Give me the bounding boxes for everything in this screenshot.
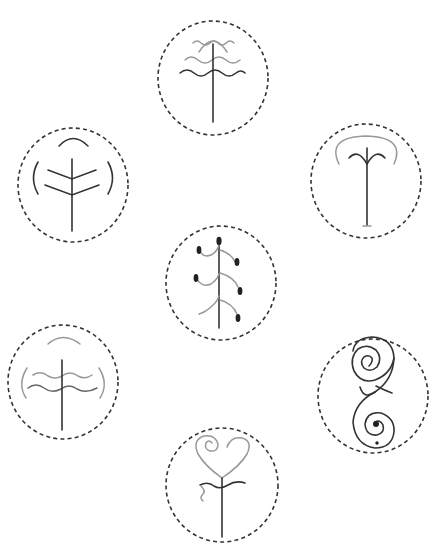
symbol-lower-right <box>318 337 428 453</box>
symbol-diagram <box>0 0 440 557</box>
chevron-branch-tree-icon <box>34 139 113 232</box>
seed-pod-stalk-icon <box>194 237 243 328</box>
heart-spiral-stem-icon <box>196 436 249 537</box>
symbol-upper-right <box>311 124 421 238</box>
symbol-upper-left <box>18 128 128 242</box>
double-wave-tree-icon <box>22 338 105 431</box>
symbol-center <box>166 226 276 340</box>
symbol-bottom <box>166 428 278 542</box>
canopy-sprout-icon <box>336 136 397 226</box>
layered-wave-tree-icon <box>180 41 245 122</box>
symbol-top <box>158 21 268 135</box>
dashed-ring <box>311 124 421 238</box>
dashed-ring <box>8 325 118 439</box>
dashed-ring <box>318 339 428 453</box>
double-spiral-icon <box>352 337 394 448</box>
symbol-lower-left <box>8 325 118 439</box>
